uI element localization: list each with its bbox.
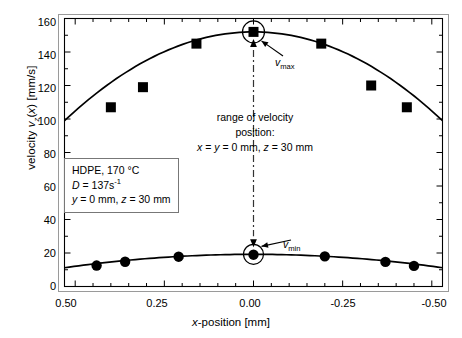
range-end: = 30 mm bbox=[269, 141, 313, 153]
vmin-leader-head bbox=[262, 242, 269, 248]
legend-end-text: = 30 mm bbox=[127, 193, 171, 205]
marker-square-4 bbox=[316, 39, 326, 49]
range-annotation-line3: x = y = 0 mm, z = 30 mm bbox=[150, 140, 360, 155]
marker-circle-0 bbox=[91, 260, 101, 270]
vmin-label: vmin bbox=[283, 238, 301, 253]
marker-circle-5 bbox=[380, 257, 390, 267]
range-annotation-line2: position: bbox=[150, 125, 360, 140]
marker-square-2 bbox=[191, 39, 201, 49]
legend-symbol-D: D bbox=[72, 179, 80, 191]
marker-circle-2 bbox=[173, 251, 183, 261]
marker-circle-3 bbox=[248, 249, 258, 259]
range-annotation: range of velocity position: x = y = 0 mm… bbox=[150, 110, 360, 155]
vmax-label: vmax bbox=[275, 56, 295, 71]
legend-value-D: = 137s bbox=[80, 179, 115, 191]
legend-box: HDPE, 170 °C D = 137s-1 y = 0 mm, z = 30… bbox=[64, 158, 179, 213]
marker-circle-1 bbox=[120, 257, 130, 267]
vmax-subscript: max bbox=[280, 62, 294, 71]
legend-line-material: HDPE, 170 °C bbox=[72, 163, 171, 177]
vmin-subscript: min bbox=[288, 244, 300, 253]
marker-circle-6 bbox=[409, 261, 419, 271]
marker-square-3 bbox=[249, 27, 259, 37]
vmax-leader-head bbox=[262, 41, 269, 47]
marker-square-0 bbox=[106, 102, 116, 112]
legend-mid-text: = 0 mm, bbox=[77, 193, 121, 205]
range-eq1: = bbox=[202, 141, 214, 153]
legend-line-position: y = 0 mm, z = 30 mm bbox=[72, 192, 171, 206]
marker-square-6 bbox=[402, 102, 412, 112]
marker-circle-4 bbox=[320, 251, 330, 261]
marker-square-5 bbox=[366, 81, 376, 91]
figure-container: velocity vz(x) [mm/s] x-position [mm] 16… bbox=[0, 0, 462, 338]
range-annotation-line1: range of velocity bbox=[150, 110, 360, 125]
arrowhead-down bbox=[250, 239, 257, 247]
range-mid: = 0 mm, bbox=[220, 141, 264, 153]
legend-exponent-D: -1 bbox=[114, 177, 121, 186]
marker-square-1 bbox=[138, 82, 148, 92]
legend-line-shearrate: D = 137s-1 bbox=[72, 177, 171, 192]
